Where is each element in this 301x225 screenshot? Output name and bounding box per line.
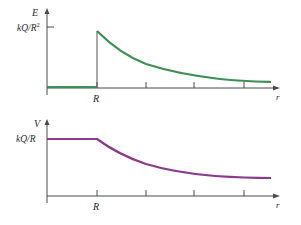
v-y-tick-label: kQ/R (16, 134, 36, 144)
e-y-tick-label: kQ/R2 (17, 21, 40, 33)
v-curve (47, 139, 271, 178)
e-x-axis-label: r (276, 92, 280, 102)
potential-chart: V kQ/R R r (16, 118, 280, 212)
e-y-axis-label: E (31, 7, 38, 18)
e-y-axis-arrow-icon (45, 8, 50, 14)
charts-canvas: E kQ/R2 R r V kQ/R R r (0, 0, 301, 225)
v-y-axis-arrow-icon (45, 119, 50, 125)
e-curve-outside (97, 31, 271, 82)
v-x-axis-label: r (276, 200, 280, 210)
v-x-tick-label: R (92, 201, 99, 212)
e-field-chart: E kQ/R2 R r (17, 7, 280, 104)
v-y-axis-label: V (34, 118, 42, 129)
e-x-tick-label: R (92, 93, 99, 104)
e-x-axis-arrow-icon (273, 86, 280, 91)
v-x-axis-arrow-icon (273, 194, 280, 199)
